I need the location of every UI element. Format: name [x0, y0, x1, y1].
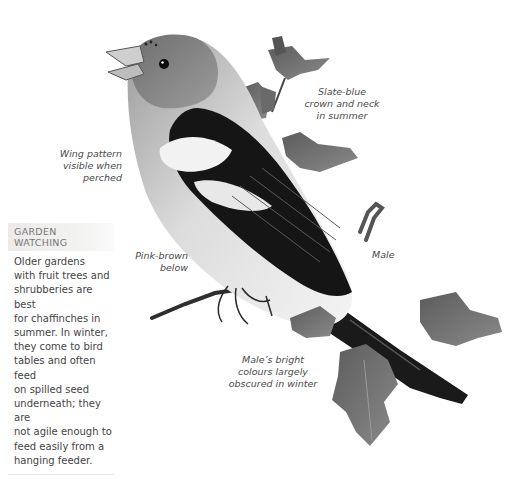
caption-belly: Pink-brown below [122, 250, 188, 274]
caption-wing-pattern: Wing pattern visible when perched [40, 148, 122, 184]
caption-male: Male [372, 249, 412, 261]
panel-divider [8, 474, 114, 475]
bird-beak [106, 46, 144, 66]
panel-title: GARDEN WATCHING [8, 223, 114, 251]
panel-body: Older gardens with fruit trees and shrub… [8, 251, 114, 472]
twig-right [360, 204, 382, 240]
garden-watching-panel: GARDEN WATCHING Older gardens with fruit… [8, 223, 114, 475]
bird-head [130, 35, 218, 109]
caption-winter: Male’s bright colours largely obscured i… [218, 354, 328, 390]
bird-eye [159, 59, 169, 69]
caption-crown: Slate-blue crown and neck in summer [292, 86, 392, 122]
